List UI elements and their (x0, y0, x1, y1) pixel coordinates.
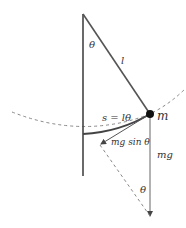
length-label: l (121, 56, 124, 66)
mass-label: m (157, 110, 168, 122)
dashed-component-line (100, 145, 150, 216)
pendulum-bob (146, 110, 154, 118)
angle-theta-bottom: θ (140, 185, 146, 195)
angle-theta-top: θ (89, 40, 95, 50)
weight-label: mg (157, 150, 173, 160)
tangential-force-label: mg sin θ (111, 138, 150, 147)
pendulum-string (83, 14, 150, 114)
arc-length-label: s = lθ (102, 113, 131, 123)
